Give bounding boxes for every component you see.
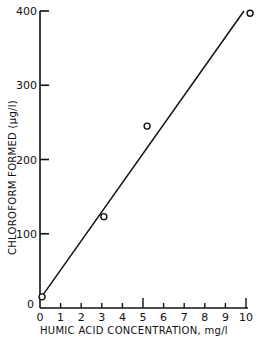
y-tick-label: 100 — [16, 228, 37, 241]
x-tick-label: 3 — [98, 311, 105, 324]
y-ticks: 0100200300400 — [16, 5, 49, 311]
series-layer — [39, 10, 253, 300]
data-point — [101, 214, 107, 220]
x-tick-label: 1 — [57, 311, 64, 324]
y-axis-label: CHLOROFORM FORMED (µg/l) — [7, 100, 18, 255]
chart: 0100200300400 012345678910 HUMIC ACID CO… — [0, 0, 257, 340]
x-tick-label: 10 — [239, 311, 253, 324]
x-tick-label: 4 — [119, 311, 126, 324]
data-point — [247, 10, 253, 16]
x-axis-label: HUMIC ACID CONCENTRATION, mg/l — [40, 325, 228, 336]
x-tick-label: 8 — [201, 311, 208, 324]
y-tick-label: 200 — [16, 154, 37, 167]
x-tick-label: 5 — [140, 311, 147, 324]
axes — [40, 11, 248, 308]
y-tick-label: 400 — [16, 5, 37, 18]
data-point — [144, 123, 150, 129]
x-ticks: 012345678910 — [37, 298, 254, 324]
x-tick-label: 7 — [181, 311, 188, 324]
data-point — [39, 294, 45, 300]
y-tick-label: 0 — [27, 298, 34, 311]
y-tick-label: 300 — [16, 79, 37, 92]
fit-line — [40, 11, 244, 299]
x-tick-label: 6 — [160, 311, 167, 324]
x-tick-label: 2 — [78, 311, 85, 324]
x-tick-label: 0 — [37, 311, 44, 324]
x-tick-label: 9 — [222, 311, 229, 324]
